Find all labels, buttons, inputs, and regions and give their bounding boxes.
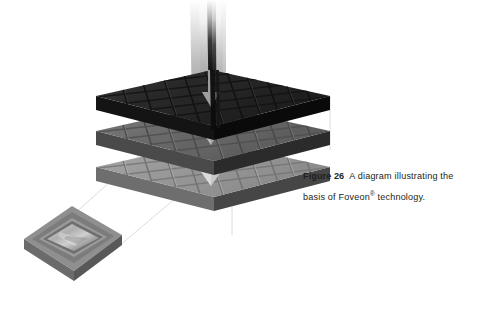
figure-root: Figure 26A diagram illustrating the basi…: [0, 0, 478, 323]
figure-caption-text-tail: technology.: [375, 192, 426, 202]
beam-through-stack: [210, 70, 220, 130]
image-sensor-chip: [24, 206, 122, 281]
foveon-sensor-diagram: [0, 0, 478, 323]
figure-number: Figure 26: [303, 171, 344, 181]
figure-caption: Figure 26A diagram illustrating the basi…: [303, 166, 475, 208]
